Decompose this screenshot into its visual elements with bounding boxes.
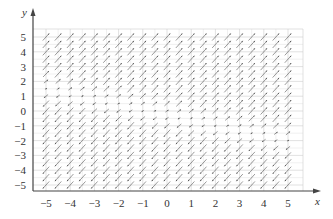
y-axis-arrow-icon	[31, 8, 36, 16]
y-tick-label: 3	[21, 61, 27, 73]
x-tick-label: −1	[137, 197, 149, 209]
y-tick-label: 5	[21, 31, 27, 43]
x-tick-label: 5	[285, 197, 291, 209]
x-tick-label: 1	[188, 197, 194, 209]
y-axis-label: y	[21, 6, 27, 18]
x-axis-arrow-icon	[313, 189, 321, 194]
y-tick-label: 0	[21, 105, 27, 117]
x-tick-label: 2	[213, 197, 219, 209]
y-tick-label: 4	[21, 46, 27, 58]
x-tick-label: −2	[113, 197, 125, 209]
x-tick-labels: −5−4−3−2−1012345	[40, 197, 291, 209]
direction-field-chart: y x −5−4−3−2−1012345 543210−1−2−3−4−5	[0, 0, 333, 219]
y-tick-label: −1	[14, 120, 26, 132]
y-tick-label: −2	[14, 135, 26, 147]
y-tick-label: −4	[14, 164, 26, 176]
y-tick-label: 2	[21, 75, 27, 87]
x-tick-label: −5	[40, 197, 52, 209]
x-axis-label: x	[314, 195, 320, 207]
y-tick-labels: 543210−1−2−3−4−5	[14, 31, 26, 191]
y-tick-label: 1	[21, 90, 27, 102]
x-tick-label: 3	[237, 197, 243, 209]
y-tick-label: −3	[14, 149, 26, 161]
y-tick-label: −5	[14, 179, 26, 191]
x-tick-label: −3	[89, 197, 101, 209]
x-tick-label: −4	[64, 197, 76, 209]
x-tick-label: 0	[164, 197, 170, 209]
x-tick-label: 4	[261, 197, 267, 209]
